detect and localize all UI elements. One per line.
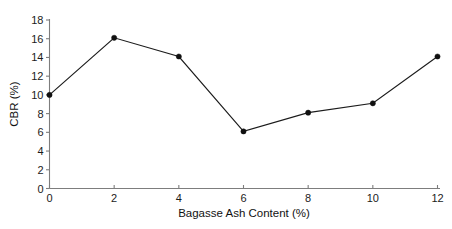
y-tick-label: 0 bbox=[37, 183, 43, 195]
x-tick-label: 0 bbox=[46, 192, 52, 204]
data-point-marker bbox=[112, 35, 117, 40]
chart-background bbox=[0, 0, 452, 229]
x-axis-title: Bagasse Ash Content (%) bbox=[178, 207, 310, 219]
x-tick-label: 10 bbox=[367, 192, 379, 204]
y-tick-label: 12 bbox=[31, 70, 43, 82]
y-tick-label: 16 bbox=[31, 33, 43, 45]
y-tick-label: 8 bbox=[37, 108, 43, 120]
y-axis-title: CBR (%) bbox=[8, 81, 20, 127]
x-tick-label: 4 bbox=[176, 192, 182, 204]
y-tick-label: 10 bbox=[31, 89, 43, 101]
line-chart-canvas: 024681012141618 CBR (%) 024681012 Bagass… bbox=[0, 0, 452, 229]
y-tick-label: 18 bbox=[31, 14, 43, 26]
data-point-marker bbox=[47, 92, 52, 97]
y-tick-label: 6 bbox=[37, 126, 43, 138]
x-tick-label: 8 bbox=[305, 192, 311, 204]
x-tick-label: 2 bbox=[111, 192, 117, 204]
data-point-marker bbox=[306, 110, 311, 115]
y-tick-label: 4 bbox=[37, 145, 43, 157]
data-point-marker bbox=[241, 129, 246, 134]
y-tick-label: 2 bbox=[37, 164, 43, 176]
x-tick-label: 12 bbox=[431, 192, 443, 204]
y-tick-label: 14 bbox=[31, 51, 43, 63]
data-point-marker bbox=[176, 54, 181, 59]
data-point-marker bbox=[435, 54, 440, 59]
chart-figure: 024681012141618 CBR (%) 024681012 Bagass… bbox=[0, 0, 452, 229]
data-point-marker bbox=[370, 101, 375, 106]
x-tick-label: 6 bbox=[240, 192, 246, 204]
